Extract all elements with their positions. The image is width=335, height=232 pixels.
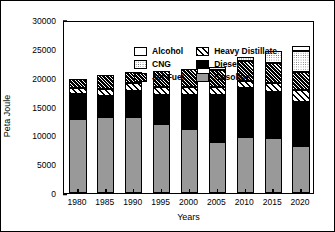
x-tick-label: 1980 <box>67 197 86 207</box>
legend-swatch-icon <box>196 73 209 82</box>
bar-segment-gasoline[interactable] <box>69 119 86 193</box>
bar-segment-alcohol[interactable] <box>292 46 309 51</box>
legend-label: Diesel <box>214 59 239 69</box>
bar-segment-diesel[interactable] <box>153 95 170 124</box>
bar-segment-diesel[interactable] <box>97 96 114 118</box>
y-tick-label: 20000 <box>32 74 61 84</box>
legend-label: Alcohol <box>152 46 183 56</box>
x-tick-label: 1995 <box>151 197 170 207</box>
x-tick-label: 1990 <box>123 197 142 207</box>
x-tick-mark <box>105 189 107 193</box>
bar-segment-gasoline[interactable] <box>292 146 309 193</box>
x-tick-label: 2000 <box>179 197 198 207</box>
bar-1995[interactable] <box>153 71 170 193</box>
plot-area: AlcoholHeavy DistillateCNGDieselJet Fuel… <box>63 21 314 194</box>
legend-label: Gasoline <box>214 72 250 82</box>
bar-segment-diesel[interactable] <box>181 95 198 129</box>
bar-segment-gasoline[interactable] <box>181 129 198 193</box>
bar-segment-gasoline[interactable] <box>153 124 170 193</box>
bar-segment-gasoline[interactable] <box>237 137 254 193</box>
bar-1990[interactable] <box>125 72 142 193</box>
bar-1985[interactable] <box>97 75 114 193</box>
legend-label: CNG <box>152 59 171 69</box>
bar-segment-gasoline[interactable] <box>125 117 142 193</box>
bar-segment-gasoline[interactable] <box>209 142 226 193</box>
y-axis-title: Peta Joule <box>2 95 12 138</box>
bar-segment-heavy-distillate[interactable] <box>153 87 170 95</box>
bar-2000[interactable] <box>181 69 198 193</box>
x-axis-title: Years <box>63 212 314 222</box>
legend-swatch-icon <box>134 47 147 56</box>
legend: AlcoholHeavy DistillateCNGDieselJet Fuel… <box>134 46 277 82</box>
y-tick-label: 10000 <box>32 131 61 141</box>
bar-1980[interactable] <box>69 79 86 193</box>
x-tick-label: 2015 <box>263 197 282 207</box>
y-tick-label: 0 <box>51 189 61 199</box>
legend-item-cng[interactable]: CNG <box>134 59 184 69</box>
x-tick-mark <box>272 189 274 193</box>
bar-segment-gasoline[interactable] <box>97 117 114 193</box>
y-tick-label: 15000 <box>32 103 61 113</box>
x-tick-mark <box>161 189 163 193</box>
legend-item-diesel[interactable]: Diesel <box>196 59 277 69</box>
bar-segment-heavy-distillate[interactable] <box>265 83 282 91</box>
bar-segment-diesel[interactable] <box>237 88 254 137</box>
x-tick-mark <box>300 189 302 193</box>
legend-label: Heavy Distillate <box>214 46 277 56</box>
legend-item-gasoline[interactable]: Gasoline <box>196 72 277 82</box>
bar-segment-heavy-distillate[interactable] <box>125 83 142 91</box>
bar-2005[interactable] <box>209 67 226 193</box>
y-tick-label: 5000 <box>37 160 61 170</box>
x-tick-label: 2020 <box>291 197 310 207</box>
y-tick-label: 30000 <box>32 16 61 26</box>
bar-segment-cng[interactable] <box>292 51 309 72</box>
legend-swatch-icon <box>134 60 147 69</box>
legend-item-heavy-distillate[interactable]: Heavy Distillate <box>196 46 277 56</box>
x-tick-mark <box>217 189 219 193</box>
legend-swatch-icon <box>134 73 147 82</box>
legend-swatch-icon <box>196 60 209 69</box>
bar-2020[interactable] <box>292 46 309 193</box>
y-tick-label: 25000 <box>32 45 61 55</box>
bar-segment-diesel[interactable] <box>265 92 282 139</box>
x-tick-label: 2010 <box>235 197 254 207</box>
bar-segment-jet-fuel[interactable] <box>97 75 114 88</box>
chart-figure: Peta Joule 05000100001500020000250003000… <box>0 0 335 232</box>
x-tick-label: 1985 <box>95 197 114 207</box>
bar-segment-diesel[interactable] <box>69 94 86 118</box>
legend-label: Jet Fuel <box>152 72 184 82</box>
bar-segment-jet-fuel[interactable] <box>69 79 86 89</box>
x-tick-mark <box>189 189 191 193</box>
legend-swatch-icon <box>196 47 209 56</box>
x-tick-mark <box>133 189 135 193</box>
x-tick-mark <box>245 189 247 193</box>
bar-segment-jet-fuel[interactable] <box>292 72 309 90</box>
bar-segment-heavy-distillate[interactable] <box>181 87 198 94</box>
bar-segment-heavy-distillate[interactable] <box>97 89 114 96</box>
bar-segment-diesel[interactable] <box>125 91 142 117</box>
x-tick-label: 2005 <box>207 197 226 207</box>
bar-segment-gasoline[interactable] <box>265 138 282 193</box>
bar-segment-diesel[interactable] <box>209 95 226 142</box>
legend-item-jet-fuel[interactable]: Jet Fuel <box>134 72 184 82</box>
bar-segment-diesel[interactable] <box>292 102 309 146</box>
x-tick-mark <box>77 189 79 193</box>
bar-segment-heavy-distillate[interactable] <box>292 90 309 102</box>
bar-segment-heavy-distillate[interactable] <box>69 88 86 94</box>
bar-segment-heavy-distillate[interactable] <box>209 87 226 94</box>
legend-item-alcohol[interactable]: Alcohol <box>134 46 184 56</box>
